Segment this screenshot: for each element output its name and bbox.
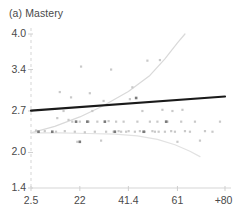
scatter-points-emphasis bbox=[37, 97, 167, 143]
y-tick-label: 1.4 bbox=[2, 181, 26, 193]
scatter-points bbox=[35, 59, 221, 143]
y-tick-label: 3.4 bbox=[2, 63, 26, 75]
y-tick-label: 2.7 bbox=[2, 104, 26, 116]
x-tick-label: 61 bbox=[157, 194, 197, 206]
x-tick-label: +80. bbox=[205, 194, 233, 206]
lower-confidence-band bbox=[31, 133, 200, 157]
x-tick-label: 22 bbox=[60, 194, 100, 206]
y-tick-label: 2.0 bbox=[2, 145, 26, 157]
x-tick-label: 41.4 bbox=[108, 194, 148, 206]
page-title: (a) Mastery bbox=[9, 7, 63, 19]
y-tick-label: 4.0 bbox=[2, 27, 26, 39]
scatter-plot-canvas bbox=[0, 0, 233, 215]
chart-figure: (a) Mastery 4.03.42.72.01.4 2.52241.461+… bbox=[0, 0, 233, 215]
upper-confidence-band bbox=[31, 34, 185, 133]
regression-line bbox=[31, 96, 225, 110]
x-tick-label: 2.5 bbox=[11, 194, 51, 206]
